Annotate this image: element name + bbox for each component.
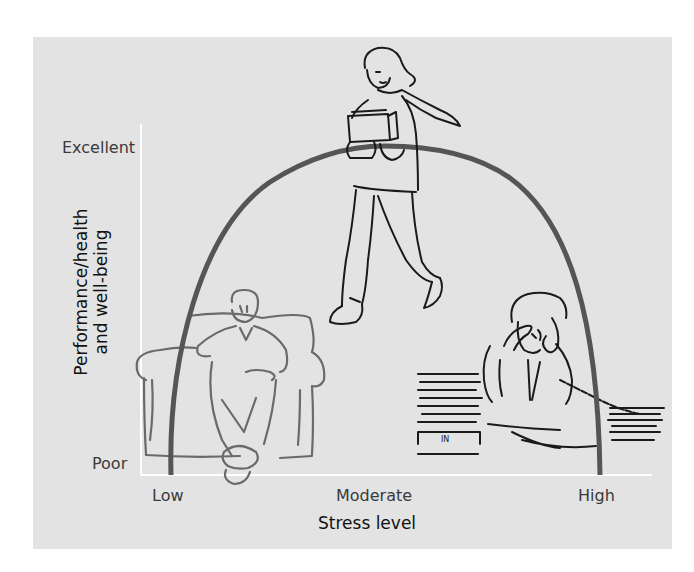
relaxed-man-armchair-icon	[137, 290, 325, 484]
x-tick-moderate: Moderate	[336, 488, 412, 504]
performance-curve	[171, 146, 600, 475]
x-tick-low: Low	[152, 488, 184, 504]
y-tick-excellent: Excellent	[62, 140, 135, 156]
y-axis-title-line2: and well-being	[92, 182, 112, 402]
stressed-man-desk-icon	[418, 293, 664, 454]
y-axis-title: Performance/health and well-being	[72, 182, 111, 402]
in-tray-label: IN	[441, 435, 449, 444]
x-tick-high: High	[578, 488, 615, 504]
y-axis-title-line1: Performance/health	[72, 182, 92, 402]
confident-woman-books-icon	[330, 48, 460, 324]
x-axis-title: Stress level	[318, 514, 416, 534]
y-tick-poor: Poor	[92, 456, 127, 472]
